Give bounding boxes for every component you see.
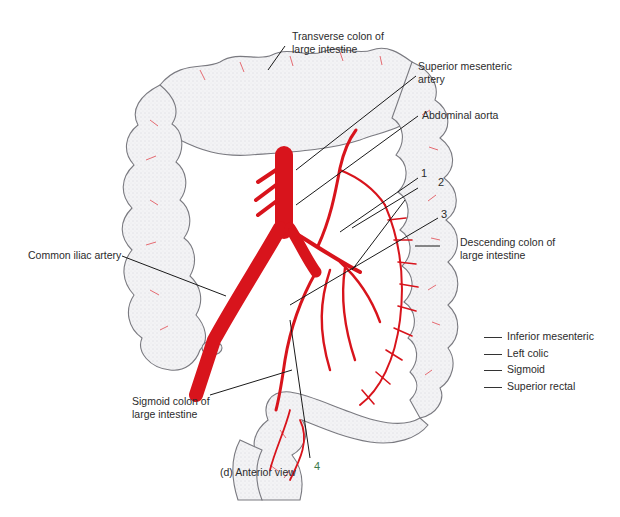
answer-key-item: Superior rectal	[484, 378, 594, 395]
left-common-iliac	[196, 228, 280, 395]
answer-key-item: Left colic	[484, 345, 594, 362]
number-3: 3	[441, 208, 447, 220]
blank-line	[484, 370, 502, 371]
transverse-colon	[160, 48, 420, 155]
number-1: 1	[421, 167, 427, 179]
answer-key-item: Inferior mesenteric	[484, 328, 594, 345]
number-2: 2	[438, 176, 444, 188]
answer-key-item: Sigmoid	[484, 361, 594, 378]
answer-key: Inferior mesenteric Left colic Sigmoid S…	[484, 328, 594, 394]
blank-line	[484, 337, 502, 338]
label-superior-mesenteric-artery: Superior mesenteric artery	[418, 60, 512, 85]
figure-caption: (d) Anterior view	[220, 466, 296, 478]
blank-line	[484, 354, 502, 355]
label-sigmoid-colon: Sigmoid colon of large intestine	[132, 395, 210, 420]
label-transverse-colon: Transverse colon of large intestine	[292, 30, 384, 55]
large-intestine	[122, 48, 458, 500]
blank-line	[484, 387, 502, 388]
number-4: 4	[314, 460, 320, 472]
sigmoid-arteries	[322, 262, 380, 370]
label-descending-colon: Descending colon of large intestine	[460, 236, 555, 261]
label-common-iliac-artery: Common iliac artery	[28, 249, 121, 262]
label-abdominal-aorta: Abdominal aorta	[422, 109, 498, 122]
